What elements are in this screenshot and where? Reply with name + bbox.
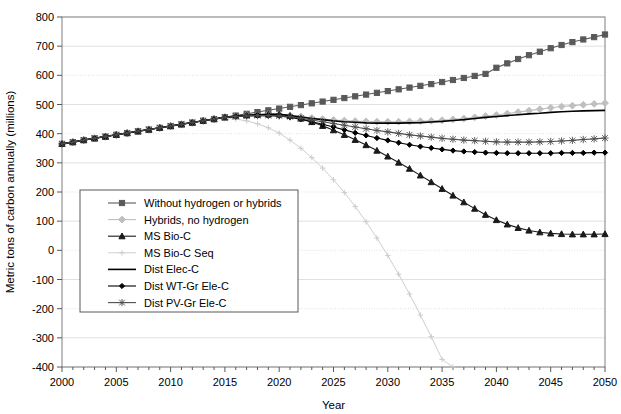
legend-label: Dist Elec-C (144, 263, 199, 275)
series-marker (374, 90, 379, 95)
series-marker (450, 77, 455, 82)
chart-container: 2000200520102015202020252030203520402045… (0, 0, 621, 414)
legend-label: Dist PV-Gr Ele-C (144, 297, 227, 309)
y-tick-label: 0 (48, 244, 54, 256)
series-marker (407, 85, 412, 90)
x-tick-label: 2045 (538, 376, 562, 388)
series-marker (440, 79, 445, 84)
series-marker (516, 56, 521, 61)
series-marker (363, 92, 368, 97)
series-marker (298, 102, 303, 107)
series-marker (537, 49, 542, 54)
legend-label: Dist WT-Gr Ele-C (144, 280, 229, 292)
series-marker (353, 94, 358, 99)
series-marker (483, 71, 488, 76)
series-marker (418, 83, 423, 88)
series-marker (548, 46, 553, 51)
y-axis-title: Metric tons of carbon annually (millions… (4, 91, 16, 294)
series-marker (559, 42, 564, 47)
series-marker (309, 101, 314, 106)
series-marker (320, 99, 325, 104)
series-marker (331, 97, 336, 102)
series-marker (592, 35, 597, 40)
series-marker (505, 61, 510, 66)
x-tick-label: 2010 (158, 376, 182, 388)
x-tick-label: 2000 (50, 376, 74, 388)
y-tick-label: 400 (36, 128, 54, 140)
x-tick-label: 2020 (267, 376, 291, 388)
series-marker (385, 88, 390, 93)
series-marker (570, 39, 575, 44)
series-marker (342, 95, 347, 100)
x-tick-label: 2040 (484, 376, 508, 388)
chart-legend: Without hydrogen or hybridsHybrids, no h… (80, 190, 298, 312)
y-tick-label: 600 (36, 69, 54, 81)
y-tick-label: -300 (32, 332, 54, 344)
y-tick-label: -200 (32, 303, 54, 315)
y-tick-label: 300 (36, 157, 54, 169)
y-tick-label: 200 (36, 186, 54, 198)
series-marker (581, 37, 586, 42)
y-tick-label: 700 (36, 40, 54, 52)
x-tick-label: 2035 (430, 376, 454, 388)
legend-label: MS Bio-C (144, 230, 191, 242)
y-tick-label: 100 (36, 215, 54, 227)
series-marker (472, 73, 477, 78)
x-tick-label: 2015 (213, 376, 237, 388)
series-marker (429, 81, 434, 86)
legend-label: Hybrids, no hydrogen (144, 214, 249, 226)
series-marker (396, 87, 401, 92)
series-marker (494, 65, 499, 70)
x-tick-label: 2005 (104, 376, 128, 388)
x-tick-label: 2050 (593, 376, 617, 388)
series-marker (287, 104, 292, 109)
line-chart: 2000200520102015202020252030203520402045… (0, 0, 621, 414)
legend-marker (119, 200, 124, 205)
legend-label: Without hydrogen or hybrids (144, 197, 282, 209)
series-marker (602, 32, 607, 37)
series-marker (526, 53, 531, 58)
x-axis-title: Year (322, 399, 345, 411)
y-tick-label: -400 (32, 361, 54, 373)
y-tick-label: 800 (36, 11, 54, 23)
x-tick-label: 2030 (376, 376, 400, 388)
legend-label: MS Bio-C Seq (144, 247, 214, 259)
y-tick-label: -100 (32, 274, 54, 286)
x-tick-label: 2025 (321, 376, 345, 388)
series-marker (461, 75, 466, 80)
y-tick-label: 500 (36, 99, 54, 111)
